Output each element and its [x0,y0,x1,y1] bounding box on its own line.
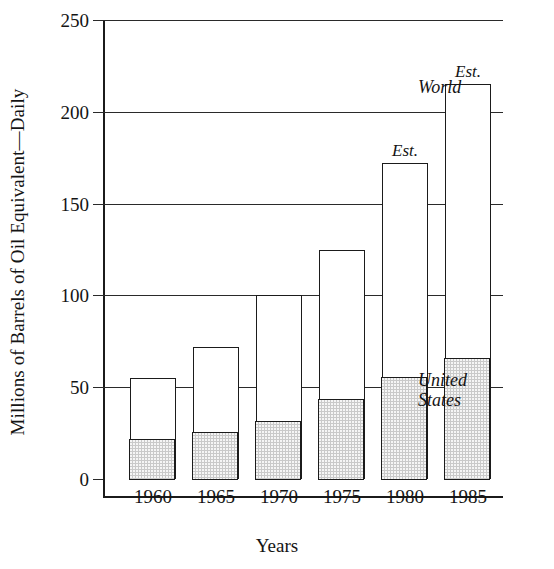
y-tick-200 [93,112,103,113]
bar-shaded-us-1960 [129,439,175,479]
x-axis-title: Years [0,535,554,557]
y-tick-label-0: 0 [80,470,90,489]
bar-1965: 1965 [193,347,239,479]
y-axis-title-wrapper: Millions of Barrels of Oil Equivalent—Da… [0,0,38,520]
gridline-200 [103,112,503,113]
bar-shaded-us-1970 [255,421,301,480]
y-tick-label-150: 150 [61,194,90,213]
bar-shaded-us-1975 [318,399,364,480]
y-tick-50 [93,387,103,388]
bar-1960: 1960 [130,378,176,479]
bar-shaded-us-1965 [192,432,238,480]
annotation-united-states: United States [418,370,467,410]
x-tick-label-1975: 1975 [323,486,361,508]
y-axis-line [103,20,105,498]
y-tick-label-200: 200 [61,102,90,121]
x-tick-label-1985: 1985 [449,486,487,508]
bar-1975: 1975 [319,250,365,480]
x-tick-label-1970: 1970 [260,486,298,508]
bar-1985: Est.1985 [445,84,491,479]
bar-1970: 1970 [256,295,302,479]
y-tick-label-50: 50 [70,378,89,397]
y-tick-label-250: 250 [61,11,90,30]
gridline-100 [103,295,503,296]
est-label-1980: Est. [392,141,418,161]
y-tick-100 [93,295,103,296]
y-tick-250 [93,20,103,21]
bar-chart: Millions of Barrels of Oil Equivalent—Da… [0,0,554,569]
y-tick-label-100: 100 [61,286,90,305]
y-tick-150 [93,204,103,205]
bar-1980: Est.1980 [382,163,428,479]
annotation-world: World [418,77,461,97]
x-tick-label-1965: 1965 [197,486,235,508]
gridline-250 [103,20,503,21]
y-axis-title: Millions of Barrels of Oil Equivalent—Da… [7,32,31,492]
gridline-150 [103,204,503,205]
y-tick-0 [93,479,103,480]
x-tick-label-1960: 1960 [134,486,172,508]
x-tick-label-1980: 1980 [386,486,424,508]
